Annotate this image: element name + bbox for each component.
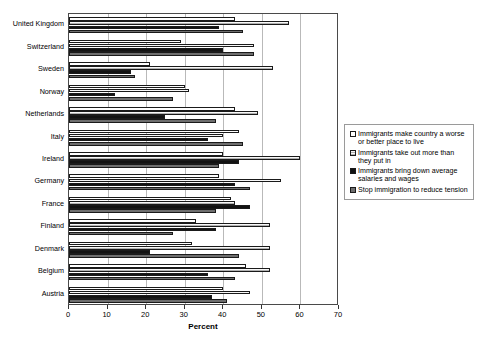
legend-label: Immigrants bring down average salaries a…	[358, 167, 469, 184]
y-axis-label-sweden: Sweden	[38, 65, 64, 73]
x-tick-label-60: 60	[284, 310, 314, 319]
bar	[69, 209, 216, 213]
bar-group	[69, 149, 337, 171]
legend-label: Stop immigration to reduce tension	[358, 186, 468, 194]
bar	[69, 40, 181, 44]
x-tick-label-10: 10	[92, 310, 122, 319]
bar	[69, 201, 235, 205]
x-tick-30	[184, 305, 185, 309]
bar	[69, 134, 223, 138]
bar	[69, 277, 235, 281]
x-tick-label-70: 70	[323, 310, 353, 319]
bar-chart: United KingdomSwitzerlandSwedenNorwayNet…	[0, 0, 481, 339]
legend-swatch-icon	[350, 168, 356, 174]
bar-group	[69, 59, 337, 81]
bar	[69, 183, 235, 187]
x-tick-50	[261, 305, 262, 309]
bar	[69, 164, 219, 168]
x-tick-70	[338, 305, 339, 309]
bar-group	[69, 104, 337, 126]
x-tick-20	[145, 305, 146, 309]
x-tick-40	[222, 305, 223, 309]
bar	[69, 142, 243, 146]
chart-legend: Immigrants make country a worse or bette…	[344, 124, 474, 200]
bar-group	[69, 216, 337, 238]
bar-group	[69, 261, 337, 283]
x-tick-label-20: 20	[130, 310, 160, 319]
bar	[69, 44, 254, 48]
legend-label: Immigrants make country a worse or bette…	[358, 130, 469, 147]
bar	[69, 174, 219, 178]
bar	[69, 70, 131, 74]
bar-group	[69, 81, 337, 103]
bar	[69, 242, 192, 246]
bar	[69, 26, 219, 30]
bar	[69, 97, 173, 101]
bar	[69, 62, 150, 66]
bar	[69, 287, 223, 291]
bar-group	[69, 239, 337, 261]
bar	[69, 48, 223, 52]
bar	[69, 89, 189, 93]
bar	[69, 299, 227, 303]
x-tick-60	[299, 305, 300, 309]
x-tick-label-0: 0	[53, 310, 83, 319]
bar	[69, 138, 208, 142]
bar	[69, 119, 216, 123]
y-axis-label-belgium: Belgium	[38, 267, 64, 275]
bar	[69, 254, 239, 258]
bar	[69, 17, 235, 21]
x-tick-10	[107, 305, 108, 309]
bar	[69, 93, 115, 97]
legend-item: Immigrants bring down average salaries a…	[350, 167, 469, 184]
legend-item: Immigrants take out more than they put i…	[350, 149, 469, 166]
bar	[69, 85, 185, 89]
bar	[69, 187, 250, 191]
x-tick-label-50: 50	[246, 310, 276, 319]
legend-label: Immigrants take out more than they put i…	[358, 149, 469, 166]
legend-swatch-icon	[350, 187, 356, 193]
plot-area	[68, 13, 338, 305]
bar	[69, 228, 216, 232]
bar	[69, 219, 196, 223]
bar	[69, 295, 212, 299]
bar-group	[69, 126, 337, 148]
bar	[69, 21, 289, 25]
bar	[69, 52, 254, 56]
y-axis-label-denmark: Denmark	[35, 245, 64, 253]
x-axis-title: Percent	[68, 322, 338, 331]
y-axis-label-ireland: Ireland	[42, 155, 64, 163]
legend-swatch-icon	[350, 150, 356, 156]
y-axis-label-france: France	[42, 200, 64, 208]
bar	[69, 130, 239, 134]
bar	[69, 111, 258, 115]
bar	[69, 246, 270, 250]
bar	[69, 264, 246, 268]
bar	[69, 156, 300, 160]
x-tick-label-40: 40	[207, 310, 237, 319]
bar-group	[69, 194, 337, 216]
bar	[69, 160, 239, 164]
bar	[69, 250, 150, 254]
legend-item: Stop immigration to reduce tension	[350, 186, 469, 194]
y-axis-label-finland: Finland	[40, 222, 64, 230]
bar-group	[69, 284, 337, 306]
bar-group	[69, 14, 337, 36]
bar-group	[69, 171, 337, 193]
y-axis-label-italy: Italy	[51, 133, 64, 141]
bar	[69, 205, 250, 209]
bar	[69, 179, 281, 183]
y-axis-label-netherlands: Netherlands	[25, 110, 64, 118]
x-tick-0	[68, 305, 69, 309]
bar	[69, 273, 208, 277]
bar	[69, 30, 243, 34]
legend-swatch-icon	[350, 131, 356, 137]
legend-item: Immigrants make country a worse or bette…	[350, 130, 469, 147]
bars-layer	[69, 14, 337, 304]
y-axis-label-switzerland: Switzerland	[27, 43, 64, 51]
y-axis-label-united-kingdom: United Kingdom	[13, 20, 64, 28]
bar	[69, 232, 173, 236]
y-axis-label-austria: Austria	[42, 290, 64, 298]
x-tick-label-30: 30	[169, 310, 199, 319]
bar	[69, 291, 250, 295]
